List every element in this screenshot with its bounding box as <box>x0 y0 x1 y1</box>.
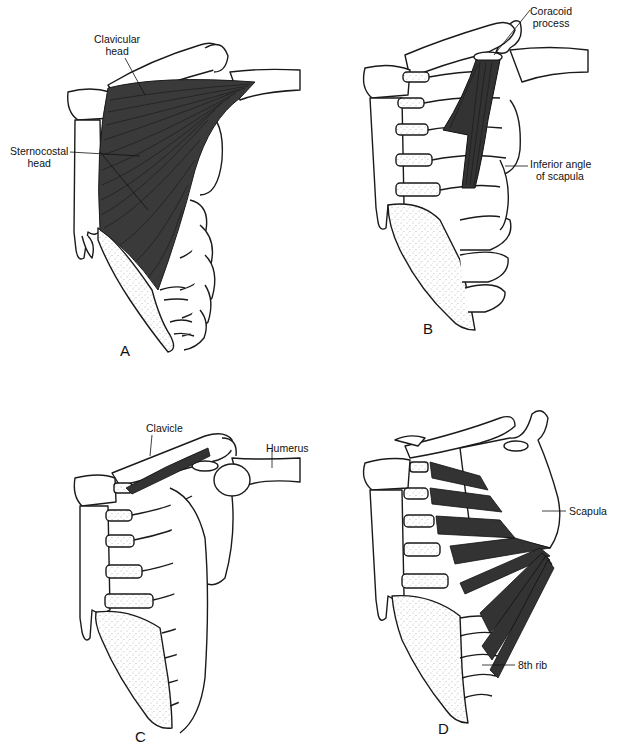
label-scapula: Scapula <box>569 505 607 517</box>
panel-d-illustration <box>310 378 620 756</box>
label-clavicle: Clavicle <box>146 422 183 434</box>
panel-letter-b: B <box>423 320 433 337</box>
panel-letter-a: A <box>120 342 130 359</box>
panel-c-subclavius: Clavicle Humerus C <box>0 378 310 756</box>
label-clavicular-head-line2: head <box>94 45 140 57</box>
panel-a-pectoralis-major: Clavicular head Sternocostal head A <box>0 0 310 378</box>
panel-letter-d: D <box>438 720 449 737</box>
label-coracoid-process-line2: process <box>530 17 572 29</box>
label-inferior-angle-line2: of scapula <box>530 170 591 182</box>
panel-letter-c: C <box>135 728 146 745</box>
label-sternocostal-head: Sternocostal <box>10 145 68 157</box>
label-clavicular-head: Clavicular <box>94 33 140 45</box>
panel-c-illustration <box>0 378 310 756</box>
panel-d-serratus-anterior: Scapula 8th rib D <box>310 378 620 756</box>
label-humerus: Humerus <box>266 442 309 454</box>
panel-a-illustration <box>0 0 310 378</box>
label-sternocostal-head-line2: head <box>10 157 68 169</box>
label-8th-rib: 8th rib <box>518 659 547 671</box>
label-coracoid-process: Coracoid <box>530 5 572 17</box>
label-inferior-angle: Inferior angle <box>530 158 591 170</box>
panel-b-pectoralis-minor: Coracoid process Inferior angle of scapu… <box>310 0 620 378</box>
panel-b-illustration <box>310 0 620 378</box>
